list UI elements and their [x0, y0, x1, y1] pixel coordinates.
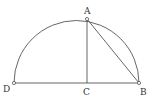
segment-ab [87, 19, 139, 83]
label-d: D [3, 84, 10, 94]
semicircle-arc [14, 21, 139, 83]
label-b: B [140, 87, 147, 97]
point-a-marker [85, 17, 88, 20]
geometry-diagram: A D C B [0, 0, 156, 109]
label-a: A [83, 6, 91, 16]
point-b-marker [137, 81, 140, 84]
label-c: C [83, 87, 90, 97]
point-d-marker [12, 81, 15, 84]
